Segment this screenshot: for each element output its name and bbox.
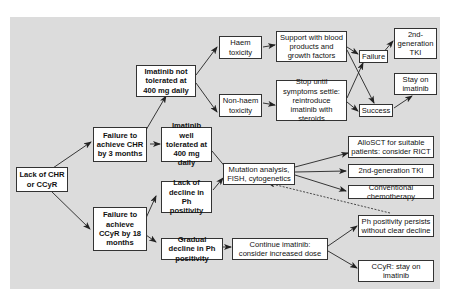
node-2nd-gen-tki-top: 2nd-generation TKI xyxy=(394,28,437,59)
node-gradual-decline-ph: Gradual decline in Ph positivity xyxy=(161,238,223,260)
node-support-blood: Support with blood products and growth f… xyxy=(276,31,347,62)
node-2nd-gen-tki: 2nd-generation TKI xyxy=(348,164,434,178)
node-mutation-analysis: Mutation analysis, FISH, cytogenetics xyxy=(223,163,295,185)
node-failure: Failure xyxy=(359,50,388,63)
node-haem-toxicity: Haem toxicity xyxy=(219,36,262,59)
node-fail-ccyr-18m: Failure to achieve CCyR by 18 months xyxy=(93,207,147,251)
node-ccyr-stay: CCyR: stay on imatinib xyxy=(358,260,434,282)
node-ph-persists: Ph positivity persists without clear dec… xyxy=(358,215,434,237)
node-lack-decline-ph: Lack of decline in Ph positivity xyxy=(161,181,212,213)
node-imatinib-well-tolerated: Imatinib well tolerated at 400 mg daily xyxy=(161,127,212,162)
node-imatinib-not-tolerated: Imatinib not tolerated at 400 mg daily xyxy=(136,65,196,97)
node-fail-chr-3m: Failure to achieve CHR by 3 months xyxy=(93,127,147,162)
node-success: Success xyxy=(359,104,393,117)
node-stay-on-imatinib: Stay on imatinib xyxy=(394,73,437,95)
node-conventional-chemo: Conventional chemotherapy xyxy=(348,185,434,199)
node-continue-imatinib: Continue imatinib: consider increased do… xyxy=(232,238,328,260)
node-non-haem-toxicity: Non-haem toxicity xyxy=(219,94,262,117)
node-stop-until: Stop until symptoms settle: reintroduce … xyxy=(276,80,347,121)
node-lack-chr-ccyr: Lack of CHR or CCyR xyxy=(16,167,68,192)
node-allosct: AlloSCT for suitable patients: consider … xyxy=(348,136,434,158)
